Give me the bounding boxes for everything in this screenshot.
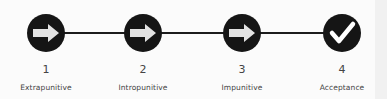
step-number: 4 bbox=[297, 64, 387, 76]
timeline-connector-line bbox=[46, 32, 342, 34]
arrow-right-icon bbox=[223, 14, 261, 52]
step-2-circle bbox=[124, 14, 162, 52]
step-3-circle bbox=[223, 14, 261, 52]
arrow-right-icon bbox=[27, 14, 65, 52]
step-4-circle bbox=[323, 14, 361, 52]
step-label: Acceptance bbox=[297, 83, 387, 93]
step-label: Extrapunitive bbox=[1, 83, 91, 93]
step-number: 3 bbox=[197, 64, 287, 76]
step-1-circle bbox=[27, 14, 65, 52]
arrow-right-icon bbox=[124, 14, 162, 52]
step-number: 2 bbox=[98, 64, 188, 76]
step-number: 1 bbox=[1, 64, 91, 76]
checkmark-icon bbox=[323, 14, 361, 52]
step-label: Impunitive bbox=[197, 83, 287, 93]
step-label: Intropunitive bbox=[98, 83, 188, 93]
